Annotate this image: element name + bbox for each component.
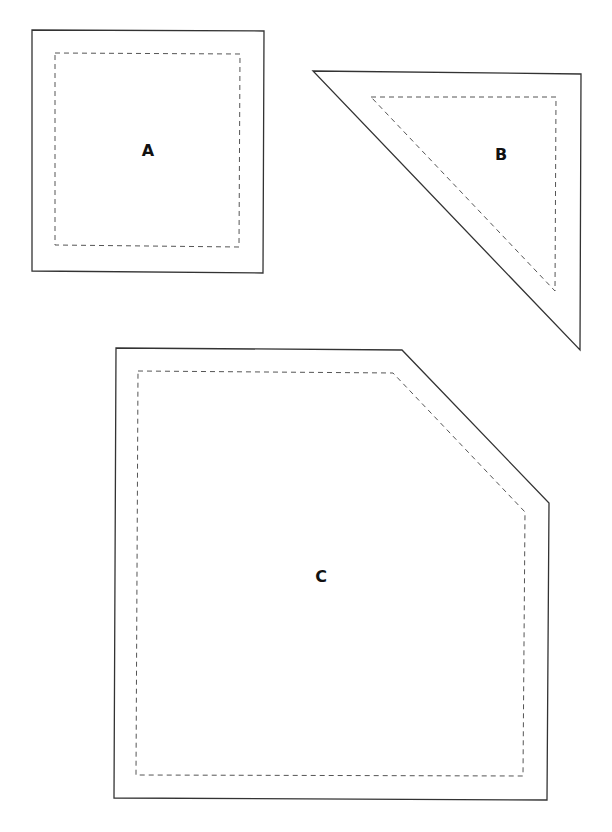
piece-c: C [114,348,549,800]
piece-b-label: B [495,145,507,164]
piece-c-seam-line [136,371,525,776]
piece-b: B [313,71,581,350]
pattern-diagram: A B C [0,0,612,832]
piece-c-cut-line [114,348,549,800]
piece-c-label: C [315,567,327,586]
piece-a-label: A [142,141,155,160]
piece-a: A [32,30,264,273]
piece-b-cut-line [313,71,581,350]
piece-b-seam-line [371,97,556,291]
